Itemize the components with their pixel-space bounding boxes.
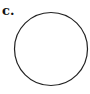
circle-diagram <box>0 0 90 94</box>
circle-shape <box>15 13 88 86</box>
